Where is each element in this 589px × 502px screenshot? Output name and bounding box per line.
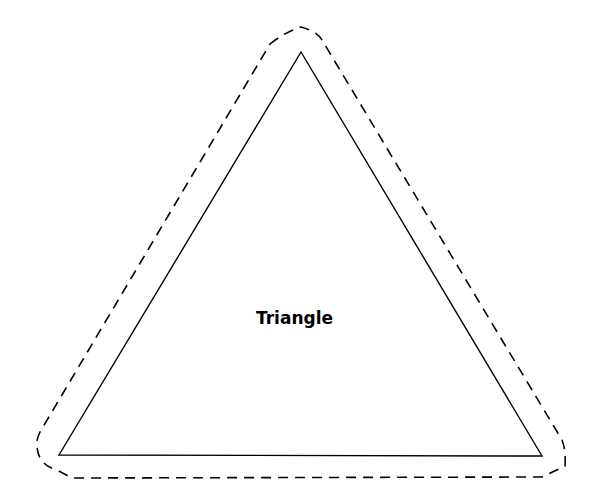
inner-triangle [59, 52, 542, 456]
triangle-diagram [0, 0, 589, 502]
dashed-cut-outline [37, 27, 565, 478]
shape-label: Triangle [0, 308, 589, 328]
diagram-canvas: Triangle [0, 0, 589, 502]
